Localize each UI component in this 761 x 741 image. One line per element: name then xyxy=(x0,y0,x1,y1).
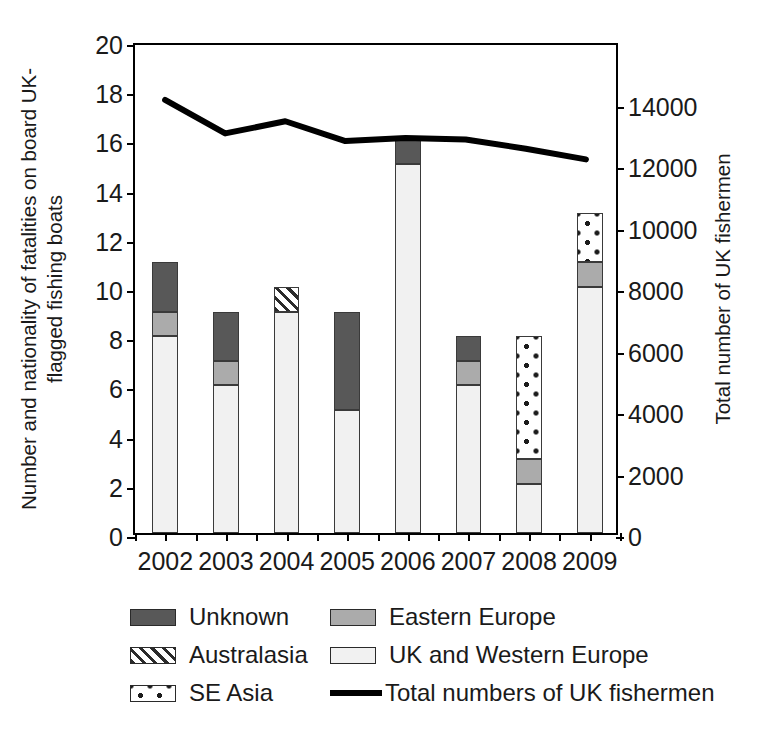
y-axis-left-tick xyxy=(127,143,135,145)
x-axis-tick-label: 2003 xyxy=(198,547,254,576)
y-axis-right-tick xyxy=(616,476,624,478)
y-axis-right-tick-label: 10000 xyxy=(628,215,698,244)
line-series-layer xyxy=(135,45,616,533)
x-axis-tick-label: 2004 xyxy=(259,547,315,576)
y-axis-left-tick-label: 18 xyxy=(95,80,123,109)
legend-swatch xyxy=(330,609,376,626)
legend-line-swatch xyxy=(330,690,382,696)
legend-swatch xyxy=(130,609,176,626)
y-axis-right-tick xyxy=(616,107,624,109)
legend-label: Unknown xyxy=(189,603,289,631)
legend-label: SE Asia xyxy=(189,679,273,707)
y-axis-left-tick-label: 2 xyxy=(109,473,123,502)
x-axis-tick xyxy=(468,533,470,541)
y-axis-left-tick-label: 16 xyxy=(95,129,123,158)
legend-item: Total numbers of UK fishermen xyxy=(330,674,660,712)
y-axis-left-tick-label: 8 xyxy=(109,326,123,355)
legend-row: AustralasiaUK and Western Europe xyxy=(130,636,660,674)
y-axis-left-tick xyxy=(127,488,135,490)
x-axis-tick xyxy=(287,533,289,541)
legend-row: UnknownEastern Europe xyxy=(130,598,660,636)
y-axis-right-tick-label: 0 xyxy=(628,523,642,552)
y-axis-left-tick xyxy=(127,291,135,293)
plot-area: 02468101214161820 0200040006000800010000… xyxy=(133,43,618,535)
legend-label: Australasia xyxy=(189,641,308,669)
y-axis-left-tick xyxy=(127,242,135,244)
chart-legend: UnknownEastern EuropeAustralasiaUK and W… xyxy=(130,598,660,712)
x-axis-tick-label: 2002 xyxy=(138,547,194,576)
x-axis-tick xyxy=(408,533,410,541)
x-axis-tick xyxy=(165,533,167,541)
total-fishermen-line xyxy=(165,100,586,159)
y-axis-left-tick xyxy=(127,389,135,391)
chart-figure: Number and nationality of fatalities on … xyxy=(0,0,761,741)
y-axis-left-title-text: Number and nationality of fatalities on … xyxy=(16,43,68,535)
y-axis-left-tick-label: 12 xyxy=(95,227,123,256)
x-axis-tick xyxy=(499,533,501,541)
x-axis-tick-label: 2007 xyxy=(441,547,497,576)
y-axis-left-tick-label: 14 xyxy=(95,178,123,207)
y-axis-right-title: Total number of UK fishermen xyxy=(706,43,740,535)
y-axis-left-tick xyxy=(127,340,135,342)
y-axis-right-tick-label: 6000 xyxy=(628,338,684,367)
x-axis-tick-label: 2009 xyxy=(562,547,618,576)
legend-item: UK and Western Europe xyxy=(330,636,660,674)
legend-swatch xyxy=(330,647,376,664)
y-axis-right-title-text: Total number of UK fishermen xyxy=(710,153,736,424)
y-axis-right-tick-label: 14000 xyxy=(628,92,698,121)
x-axis-tick xyxy=(347,533,349,541)
x-axis-tick-label: 2008 xyxy=(501,547,557,576)
legend-swatch xyxy=(130,647,176,664)
x-axis-tick-label: 2005 xyxy=(319,547,375,576)
legend-item: SE Asia xyxy=(130,674,330,712)
x-axis-tick xyxy=(529,533,531,541)
y-axis-left-tick-label: 4 xyxy=(109,424,123,453)
x-axis-tick xyxy=(378,533,380,541)
legend-label: Total numbers of UK fishermen xyxy=(385,679,714,707)
x-axis-tick xyxy=(590,533,592,541)
y-axis-left-tick-label: 0 xyxy=(109,523,123,552)
y-axis-right-tick xyxy=(616,291,624,293)
legend-label: Eastern Europe xyxy=(389,603,556,631)
y-axis-left-tick-label: 6 xyxy=(109,375,123,404)
y-axis-right-tick-label: 12000 xyxy=(628,154,698,183)
y-axis-right-tick-label: 4000 xyxy=(628,400,684,429)
legend-swatch xyxy=(130,685,176,702)
y-axis-left-tick xyxy=(127,439,135,441)
y-axis-right-tick xyxy=(616,168,624,170)
y-axis-right-tick-label: 8000 xyxy=(628,277,684,306)
y-axis-right-tick xyxy=(616,230,624,232)
y-axis-right-tick xyxy=(616,353,624,355)
y-axis-left-tick xyxy=(127,537,135,539)
y-axis-left-tick xyxy=(127,193,135,195)
x-axis-tick xyxy=(438,533,440,541)
legend-label: UK and Western Europe xyxy=(389,641,649,669)
y-axis-left-tick-label: 20 xyxy=(95,31,123,60)
x-axis-tick xyxy=(196,533,198,541)
legend-row: SE AsiaTotal numbers of UK fishermen xyxy=(130,674,660,712)
x-axis-tick xyxy=(559,533,561,541)
x-axis-tick xyxy=(256,533,258,541)
x-axis-tick xyxy=(620,533,622,541)
legend-item: Unknown xyxy=(130,598,330,636)
y-axis-left-tick xyxy=(127,45,135,47)
y-axis-left-tick-label: 10 xyxy=(95,277,123,306)
y-axis-left-tick xyxy=(127,94,135,96)
y-axis-left-title: Number and nationality of fatalities on … xyxy=(14,43,70,535)
x-axis-tick xyxy=(226,533,228,541)
y-axis-right-tick-label: 2000 xyxy=(628,461,684,490)
legend-item: Australasia xyxy=(130,636,330,674)
x-axis-tick xyxy=(135,533,137,541)
y-axis-right-tick xyxy=(616,414,624,416)
x-axis-tick xyxy=(317,533,319,541)
legend-item: Eastern Europe xyxy=(330,598,660,636)
x-axis-tick-label: 2006 xyxy=(380,547,436,576)
